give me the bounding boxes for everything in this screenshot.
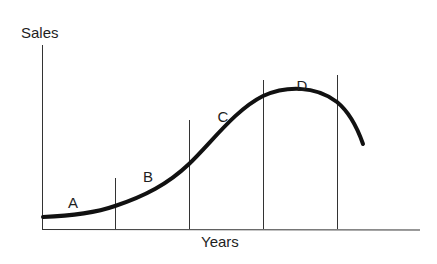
stage-label-b: B <box>143 169 153 184</box>
stage-label-c: C <box>218 109 229 124</box>
stage-label-d: D <box>297 78 308 93</box>
y-axis-label: Sales <box>21 25 59 40</box>
x-axis-label: Years <box>201 234 239 249</box>
x-axis <box>42 230 420 231</box>
sales-curve <box>43 89 363 217</box>
stage-label-a: A <box>68 195 78 210</box>
life-cycle-diagram: Sales Years A B C D <box>0 0 437 264</box>
diagram-canvas <box>0 0 437 264</box>
